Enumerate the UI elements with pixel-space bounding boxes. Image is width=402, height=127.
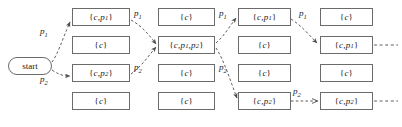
node-c1r4[interactable]: {c} <box>72 92 130 110</box>
node-c1r1[interactable]: {c, p1} <box>72 8 130 26</box>
node-c3r3[interactable]: {c} <box>238 64 291 82</box>
edge-c3r1-to-c4r2 <box>291 19 317 43</box>
edge-label-p2-c2: p2 <box>219 62 227 74</box>
node-c4r3[interactable]: {c} <box>320 64 373 82</box>
node-c3r2[interactable]: {c} <box>238 36 291 54</box>
node-c3r4[interactable]: {c, p2} <box>238 92 291 110</box>
edge-start-to-c1r1 <box>52 22 70 62</box>
node-c4r4[interactable]: {c, p2} <box>320 92 373 110</box>
edge-c1r1-to-c2r2 <box>131 20 156 44</box>
node-c4r1[interactable]: {c} <box>320 8 373 26</box>
edge-start-to-c1r3 <box>52 70 70 76</box>
edge-label-p1-c3: p1 <box>299 8 307 20</box>
diagram-canvas: start {c, p1} {c} {c, p2} {c} {c} {c, p1… <box>0 0 402 127</box>
node-c2r4[interactable]: {c} <box>158 92 215 110</box>
edge-c2r2-to-c3r1 <box>216 18 236 43</box>
node-c2r1[interactable]: {c} <box>158 8 215 26</box>
node-c2r3[interactable]: {c} <box>158 64 215 82</box>
node-c2r2[interactable]: {c, p1, p2} <box>158 36 215 54</box>
node-c1r3[interactable]: {c, p2} <box>72 64 130 82</box>
edge-label-p1-c2: p1 <box>219 8 227 20</box>
edge-label-p2-c3: p2 <box>293 86 301 98</box>
node-c4r2[interactable]: {c, p1} <box>320 36 373 54</box>
edge-label-p2-start: p2 <box>40 74 48 86</box>
edge-label-p2-c1: p2 <box>134 62 142 74</box>
start-node-label: start <box>22 61 38 71</box>
edge-label-p1-start: p1 <box>40 26 48 38</box>
edge-label-p1-c1: p1 <box>134 8 142 20</box>
start-node[interactable]: start <box>8 57 52 75</box>
node-c1r2[interactable]: {c} <box>72 36 130 54</box>
node-c3r1[interactable]: {c, p1} <box>238 8 291 26</box>
